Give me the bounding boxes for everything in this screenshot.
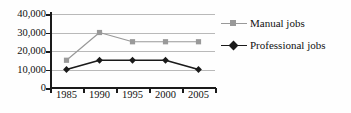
data-point-diamond <box>63 66 70 73</box>
series-layer <box>50 14 215 88</box>
plot-area <box>50 14 215 88</box>
y-axis-line <box>50 12 52 90</box>
chart-legend: Manual jobs Professional jobs <box>221 12 351 56</box>
x-axis-labels: 19851990199520002005 <box>50 90 216 110</box>
x-tick-mark <box>182 88 184 93</box>
data-point-square <box>130 39 135 44</box>
legend-marker-square-icon <box>221 17 247 29</box>
data-point-square <box>163 39 168 44</box>
x-tick-mark <box>50 88 52 93</box>
legend-item-professional[interactable]: Professional jobs <box>221 34 351 56</box>
data-point-square <box>97 30 102 35</box>
x-tick-label: 1990 <box>83 90 116 101</box>
x-tick-mark <box>149 88 151 93</box>
x-tick-mark <box>116 88 118 93</box>
y-axis-labels: 010,00020,00030,00040,000 <box>0 0 46 113</box>
legend-label-professional: Professional jobs <box>247 39 325 51</box>
x-tick-label: 1985 <box>50 90 83 101</box>
data-point-diamond <box>96 57 103 64</box>
x-tick-label: 1995 <box>116 90 149 101</box>
y-tick-label: 40,000 <box>17 9 46 20</box>
y-tick-label: 20,000 <box>17 46 46 57</box>
x-tick-label: 2000 <box>149 90 182 101</box>
data-point-diamond <box>162 57 169 64</box>
legend-item-manual[interactable]: Manual jobs <box>221 12 351 34</box>
series-line <box>67 33 199 61</box>
x-tick-label: 2005 <box>182 90 215 101</box>
x-tick-mark <box>83 88 85 93</box>
data-point-diamond <box>195 66 202 73</box>
data-point-square <box>196 39 201 44</box>
x-tick-mark <box>215 88 217 93</box>
legend-label-manual: Manual jobs <box>247 17 305 29</box>
y-tick-label: 30,000 <box>17 28 46 39</box>
data-point-square <box>64 58 69 63</box>
legend-marker-diamond-icon <box>221 39 247 51</box>
data-point-diamond <box>129 57 136 64</box>
line-chart: 010,00020,00030,00040,000 19851990199520… <box>0 0 351 113</box>
y-tick-label: 10,000 <box>17 65 46 76</box>
